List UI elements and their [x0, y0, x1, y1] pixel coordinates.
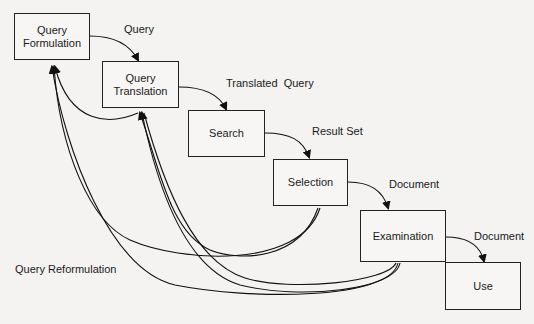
node-label: Search — [209, 127, 244, 140]
node-label: Use — [473, 280, 493, 293]
node-query-translation: QueryTranslation — [102, 61, 179, 108]
node-selection: Selection — [273, 159, 348, 206]
edge-label-document-2: Document — [474, 230, 524, 242]
node-label: Query — [23, 24, 81, 37]
node-label: Selection — [288, 176, 333, 189]
edge-label-result-set: Result Set — [312, 125, 363, 137]
feedback-examination-to-translation-2 — [144, 113, 396, 285]
node-use: Use — [445, 262, 521, 310]
node-label: Translation — [113, 85, 167, 98]
node-search: Search — [188, 110, 265, 157]
node-label: Formulation — [23, 37, 81, 50]
node-examination: Examination — [360, 210, 446, 262]
arrow-translated-query — [179, 87, 226, 109]
node-query-formulation: QueryFormulation — [14, 13, 90, 60]
edge-label-document-1: Document — [389, 178, 439, 190]
arrow-query — [90, 36, 138, 60]
node-label: Examination — [373, 230, 434, 243]
edge-label-translated-query: Translated Query — [226, 77, 314, 89]
arrow-document-1 — [348, 182, 388, 208]
arrow-result-set — [265, 133, 309, 157]
feedback-examination-to-translation — [142, 113, 400, 292]
node-label: Query — [113, 72, 167, 85]
edge-label-query: Query — [124, 23, 154, 35]
feedback-label: Query Reformulation — [15, 263, 117, 275]
